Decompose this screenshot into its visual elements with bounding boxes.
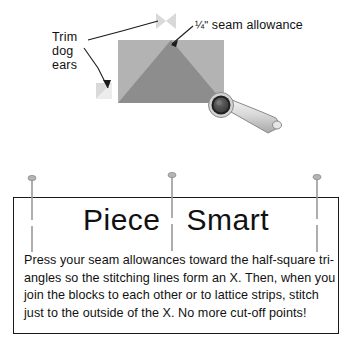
body-line-3: join the blocks to each other or to latt…	[24, 287, 330, 305]
rotary-cutter-icon	[209, 93, 282, 134]
piece-smart-tip-section: PieceSmart Press your seam allowances to…	[0, 168, 353, 351]
dog-ear-bottom-left	[96, 83, 112, 99]
trim-label-line-2: dog	[52, 44, 77, 58]
trim-dog-ears-label: Trim dog ears	[52, 30, 77, 72]
title-word-2: Smart	[187, 203, 270, 237]
trim-label-line-1: Trim	[52, 30, 77, 44]
seam-allowance-label: ¼" seam allowance	[195, 18, 303, 32]
trim-label-line-3: ears	[52, 58, 77, 72]
body-line-1: Press your seam allowances toward the ha…	[24, 252, 330, 270]
quilting-block-illustration: Trim dog ears ¼" seam allowance	[0, 0, 353, 168]
leader-line-trim-top	[88, 21, 158, 40]
body-line-4: just to the outside of the X. No more cu…	[24, 305, 330, 323]
dog-ear-top	[156, 13, 176, 29]
tip-box-body: Press your seam allowances toward the ha…	[24, 252, 330, 322]
tip-box-title: PieceSmart	[13, 203, 339, 237]
page-root: Trim dog ears ¼" seam allowance	[0, 0, 353, 351]
seam-allowance-text: seam allowance	[208, 18, 303, 32]
title-word-1: Piece	[83, 203, 161, 237]
seam-allowance-fraction: ¼"	[195, 19, 208, 31]
body-line-2: angles so the stitching lines form an X.…	[24, 270, 330, 288]
